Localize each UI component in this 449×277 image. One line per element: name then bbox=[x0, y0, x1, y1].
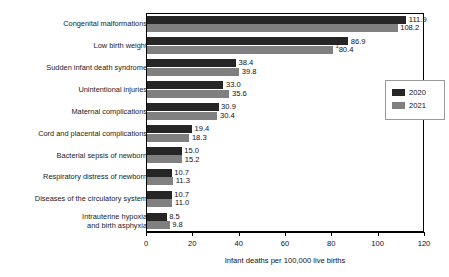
bar-2020 bbox=[147, 169, 172, 177]
legend-label: 2020 bbox=[409, 88, 426, 97]
x-tick bbox=[192, 232, 193, 236]
bar-2020 bbox=[147, 125, 192, 133]
category-label-line: Respiratory distress of newborn bbox=[43, 173, 147, 182]
category-label: Congenital malformations bbox=[63, 20, 147, 29]
bar-group: 10.711.3 bbox=[147, 169, 423, 189]
bar-2020 bbox=[147, 191, 172, 199]
bar-value-label: 15.0 bbox=[184, 147, 199, 155]
bar-value-label: 9.8 bbox=[172, 221, 183, 229]
bar-value-label: 18.3 bbox=[192, 134, 207, 142]
bar-value-label: 19.4 bbox=[194, 125, 209, 133]
category-label: Respiratory distress of newborn bbox=[43, 173, 147, 182]
x-tick-label: 80 bbox=[327, 239, 335, 248]
category-label-line: Diseases of the circulatory system bbox=[35, 195, 147, 204]
bar-2021 bbox=[147, 155, 182, 163]
category-label-line: Bacterial sepsis of newborn bbox=[57, 152, 147, 161]
category-label: Cord and placental complications bbox=[38, 130, 147, 139]
bar-2021 bbox=[147, 177, 173, 185]
bar-2020 bbox=[147, 37, 348, 45]
category-label: Intrauterine hypoxiaand birth asphyxia bbox=[82, 213, 147, 230]
bar-value-label: 30.4 bbox=[220, 112, 235, 120]
bar-group: 86.9180.4 bbox=[147, 37, 423, 57]
category-label: Diseases of the circulatory system bbox=[35, 195, 147, 204]
x-tick bbox=[285, 232, 286, 236]
bar-value-label: 15.2 bbox=[185, 156, 200, 164]
category-label-line: Low birth weight bbox=[94, 42, 147, 51]
chart-legend: 20202021 bbox=[385, 80, 445, 120]
bar-2021 bbox=[147, 134, 189, 142]
category-label-line: Maternal complications bbox=[71, 108, 147, 117]
x-tick-label: 0 bbox=[144, 239, 148, 248]
x-tick-label: 100 bbox=[371, 239, 384, 248]
legend-item-2020: 2020 bbox=[392, 88, 426, 97]
category-label-line: and birth asphyxia bbox=[82, 222, 147, 231]
bar-group: 38.439.8 bbox=[147, 59, 423, 79]
bar-2021 bbox=[147, 68, 239, 76]
bar-group: 111.9108.2 bbox=[147, 16, 423, 36]
category-label: Bacterial sepsis of newborn bbox=[57, 152, 147, 161]
category-label-line: Cord and placental complications bbox=[38, 130, 147, 139]
bar-group: 8.59.8 bbox=[147, 213, 423, 233]
category-label: Maternal complications bbox=[71, 108, 147, 117]
legend-item-2021: 2021 bbox=[392, 101, 426, 110]
x-tick bbox=[331, 232, 332, 236]
bar-value-label: 11.3 bbox=[176, 177, 190, 185]
bar-2020 bbox=[147, 59, 236, 67]
x-tick-label: 40 bbox=[234, 239, 242, 248]
bar-value-label: 35.6 bbox=[232, 90, 247, 98]
category-label-line: Unintentional injuries bbox=[78, 86, 147, 95]
x-tick bbox=[239, 232, 240, 236]
bar-group: 10.711.0 bbox=[147, 191, 423, 211]
bar-2021 bbox=[147, 24, 398, 32]
bar-group: 19.418.3 bbox=[147, 125, 423, 145]
infant-mortality-bar-chart: Congenital malformationsLow birth weight… bbox=[0, 0, 449, 277]
x-tick bbox=[146, 232, 147, 236]
legend-label: 2021 bbox=[409, 101, 426, 110]
bar-2021 bbox=[147, 221, 170, 229]
bar-group: 15.015.2 bbox=[147, 147, 423, 167]
category-label-line: Sudden infant death syndrome bbox=[46, 64, 147, 73]
bar-group: 30.930.4 bbox=[147, 103, 423, 123]
x-tick-label: 20 bbox=[188, 239, 196, 248]
bar-value-label: 39.8 bbox=[242, 68, 257, 76]
bar-2020 bbox=[147, 147, 182, 155]
bar-value-label: 11.0 bbox=[175, 199, 189, 207]
x-tick-label: 120 bbox=[418, 239, 431, 248]
bar-2020 bbox=[147, 81, 223, 89]
bar-2021 bbox=[147, 46, 333, 54]
category-label: Low birth weight bbox=[94, 42, 147, 51]
bar-2021 bbox=[147, 199, 172, 207]
bar-group: 33.035.6 bbox=[147, 81, 423, 101]
category-label: Unintentional injuries bbox=[78, 86, 147, 95]
bar-2020 bbox=[147, 213, 167, 221]
category-label-line: Congenital malformations bbox=[63, 20, 147, 29]
bar-2021 bbox=[147, 112, 217, 120]
legend-swatch bbox=[392, 89, 405, 96]
x-tick-label: 60 bbox=[281, 239, 289, 248]
x-tick bbox=[424, 232, 425, 236]
x-tick bbox=[378, 232, 379, 236]
bar-2020 bbox=[147, 16, 406, 24]
category-label: Sudden infant death syndrome bbox=[46, 64, 147, 73]
footnote-marker: 1 bbox=[336, 44, 339, 50]
plot-area: 111.9108.286.9180.438.439.833.035.630.93… bbox=[146, 13, 424, 232]
bar-2021 bbox=[147, 90, 229, 98]
bar-value-label: 86.9 bbox=[351, 38, 366, 46]
bar-2020 bbox=[147, 103, 219, 111]
bar-value-label: 108.2 bbox=[400, 24, 419, 32]
legend-swatch bbox=[392, 102, 405, 109]
bar-value-label: 180.4 bbox=[336, 46, 354, 54]
x-axis-title: Infant deaths per 100,000 live births bbox=[146, 256, 424, 265]
